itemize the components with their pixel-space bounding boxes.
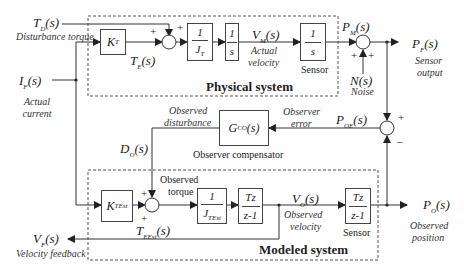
sign-plus: + [141, 188, 147, 199]
block-kt: KT [100, 29, 126, 55]
signal-vm: VM(s) [252, 28, 280, 45]
sign-minus: – [397, 136, 403, 147]
signal-vo-desc1: Observed [284, 210, 322, 220]
sensor-modeled-caption: Sensor [343, 228, 370, 238]
signal-pf-desc1: Sensor [415, 56, 442, 66]
sum-observer-error [380, 121, 394, 135]
block-sensor-physical: 1s [300, 23, 326, 61]
signal-noise-desc: Noise [351, 87, 374, 97]
modeled-system-title: Modeled system [259, 243, 348, 256]
signal-if: IF(s) [19, 74, 41, 91]
signal-vf: VF(s) [33, 232, 59, 249]
block-discrete-integrator: Tzz-1 [238, 188, 263, 224]
observer-compensator-caption: Observer compensator [193, 150, 283, 160]
signal-vm-desc2: velocity [248, 58, 279, 68]
block-inertia-est: 1JTEst [197, 188, 227, 224]
signal-do-desc2: disturbance [164, 118, 211, 128]
observed-torque-desc2: torque [168, 187, 194, 197]
physical-system-title: Physical system [206, 80, 293, 93]
signal-po-desc2: position [412, 233, 444, 243]
signal-vf-desc: Velocity feedback [16, 249, 86, 259]
block-observer-compensator: GCO(s) [219, 110, 269, 146]
sum-modeled-torque [145, 198, 159, 212]
sign-plus: + [398, 112, 404, 123]
signal-po: PO(s) [423, 198, 450, 215]
observed-torque-desc1: Observed [160, 175, 198, 185]
block-sensor-modeled: Tzz-1 [345, 188, 371, 224]
signal-poe-desc2: error [291, 119, 312, 129]
signal-teest: TEEst(s) [136, 224, 170, 241]
signal-poe-desc1: Observer [283, 107, 320, 117]
sign-plus: + [177, 22, 183, 33]
signal-pm: PM(s) [342, 20, 370, 37]
signal-do-desc1: Observed [169, 106, 207, 116]
signal-po-desc1: Observed [410, 221, 448, 231]
sign-plus: + [141, 213, 147, 224]
signal-pf: PF(s) [412, 37, 438, 54]
block-inertia: 1JT [187, 23, 213, 61]
signal-do: DO(s) [120, 142, 148, 159]
signal-vo: VO(s) [292, 192, 319, 209]
signal-td-desc: Disturbance torque [16, 32, 94, 42]
signal-if-desc: Actual current [20, 96, 54, 120]
block-integrator: 1s [225, 23, 239, 61]
sign-plus: + [351, 50, 357, 61]
sign-plus: + [150, 26, 156, 37]
sensor-physical-caption: Sensor [301, 65, 328, 75]
block-diagram: KT 1JT 1s 1s GCO(s) KTEst 1JTEst Tzz-1 T… [0, 0, 464, 273]
sum-physical-torque [162, 35, 176, 49]
sum-sensor-noise [356, 35, 370, 49]
block-ktest: KTEst [101, 190, 133, 222]
signal-vo-desc2: velocity [290, 222, 321, 232]
signal-pf-desc2: output [417, 68, 443, 78]
signal-vm-desc1: Actual [251, 46, 277, 56]
sign-plus: + [368, 50, 374, 61]
signal-poe: POE(s) [336, 113, 367, 130]
signal-te: TE(s) [130, 54, 155, 71]
